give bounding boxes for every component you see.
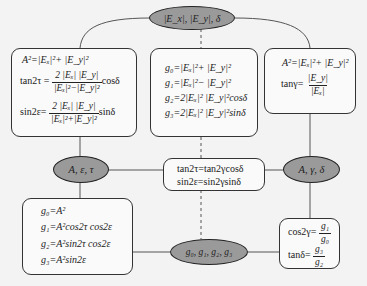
- fraction: g₁ g₀: [319, 222, 331, 244]
- eq-g2: g₂=2|Eₓ|² |E_y|²cosδ: [165, 93, 247, 103]
- eq-tan-gamma: tanγ= |E_y| |Eₓ|: [281, 74, 330, 96]
- fraction: 2 |Eₓ| |E_y| |Eₓ|²−|E_y|²: [52, 71, 102, 93]
- eq-g1: g₁=A²cos2τ cos2ε: [41, 222, 112, 232]
- node-field-amplitudes: |E_x|, |E_y|, δ: [149, 6, 235, 30]
- node-label: |E_x|, |E_y|, δ: [164, 13, 221, 24]
- eq-cos2gamma: cos2γ= g₁ g₀: [288, 222, 331, 244]
- fraction: 2 |Eₓ| |E_y| |Eₓ|²+|E_y|²: [49, 102, 99, 124]
- node-auxiliary-params: A, γ, δ: [283, 156, 340, 183]
- box-auxiliary-from-stokes: cos2γ= g₁ g₀ tanδ= g₃ g₂: [279, 218, 340, 269]
- eq-g1: g₁=|Eₓ|²− |E_y|²: [165, 78, 231, 88]
- box-ellipse-params-from-field: A²=|Eₓ|²+ |E_y|² tan2τ = 2 |Eₓ| |E_y| |E…: [11, 48, 137, 137]
- box-angle-relations: tan2τ=tan2γcosδ sin2ε=sin2γsinδ: [163, 158, 265, 191]
- eq-sin-relation: sin2ε=sin2γsinδ: [177, 177, 241, 187]
- eq-g2: g₂=A²sin2τ cos2ε: [41, 239, 110, 249]
- fraction: |E_y| |Eₓ|: [306, 74, 330, 96]
- eq-g3: g₃=A²sin2ε: [41, 255, 86, 265]
- fraction: g₃ g₂: [313, 245, 325, 267]
- eq-sin2epsilon: sin2ε= 2 |Eₓ| |E_y| |Eₓ|²+|E_y|² sinδ: [20, 102, 115, 124]
- box-auxiliary-angle: A²=|Eₓ|²+ |E_y|² tanγ= |E_y| |Eₓ|: [264, 48, 356, 114]
- eq-g0: g₀=|Eₓ|²+ |E_y|²: [165, 63, 231, 73]
- eq-tan2tau: tan2τ = 2 |Eₓ| |E_y| |Eₓ|²−|E_y|² cosδ: [20, 71, 120, 93]
- eq-g3: g₃=2|Eₓ|² |E_y|²sinδ: [165, 108, 246, 118]
- node-ellipse-params: A, ε, τ: [53, 156, 109, 183]
- eq-tan-relation: tan2τ=tan2γcosδ: [177, 164, 244, 174]
- eq-amplitude: A²=|Eₓ|²+ |E_y|²: [22, 55, 89, 65]
- node-stokes-params: g₀, g₁, g₂, g₃: [170, 239, 248, 265]
- eq-tan-delta: tanδ= g₃ g₂: [288, 245, 325, 267]
- eq-amplitude: A²=|Eₓ|²+ |E_y|²: [282, 58, 349, 68]
- box-stokes-from-ellipse: g₀=A² g₁=A²cos2τ cos2ε g₂=A²sin2τ cos2ε …: [22, 198, 133, 275]
- eq-g0: g₀=A²: [41, 206, 65, 216]
- box-stokes-from-field: g₀=|Eₓ|²+ |E_y|² g₁=|Eₓ|²− |E_y|² g₂=2|E…: [150, 48, 258, 137]
